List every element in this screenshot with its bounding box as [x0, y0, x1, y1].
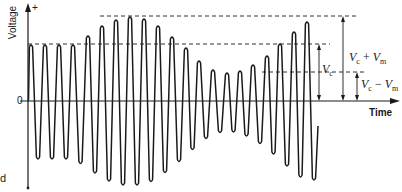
vc-minus-vm-label: Vc − Vm: [361, 77, 398, 93]
y-axis-positive-marker: +: [32, 2, 38, 13]
x-axis-arrow-icon: [390, 98, 400, 104]
margin-text: d: [0, 172, 6, 184]
y-axis-arrow-icon: [25, 3, 31, 12]
origin-label: 0: [17, 95, 23, 106]
vc-label: Vc: [322, 62, 333, 78]
vc-plus-vm-label: Vc + Vm: [349, 50, 386, 66]
x-axis-label: Time: [369, 107, 392, 118]
y-axis-label: Voltage: [7, 3, 18, 43]
am-waveform-diagram: [0, 0, 402, 192]
